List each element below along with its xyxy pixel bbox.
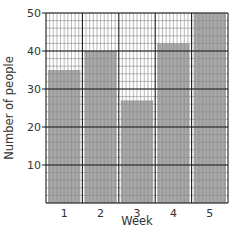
y-tick-label: 50 <box>27 7 41 20</box>
x-tick-label: 1 <box>61 207 68 220</box>
x-tick-label: 4 <box>170 207 177 220</box>
y-axis-ticks: 1020304050 <box>27 7 41 172</box>
y-axis-label: Number of people <box>2 56 16 160</box>
y-tick-label: 10 <box>27 159 41 172</box>
x-tick-label: 2 <box>97 207 104 220</box>
y-tick-label: 40 <box>27 45 41 58</box>
y-tick-label: 30 <box>27 83 41 96</box>
x-axis-label: Week <box>121 214 153 228</box>
bar-chart: 1020304050 12345 Week Number of people <box>0 0 229 228</box>
x-tick-label: 5 <box>206 207 213 220</box>
y-tick-label: 20 <box>27 121 41 134</box>
